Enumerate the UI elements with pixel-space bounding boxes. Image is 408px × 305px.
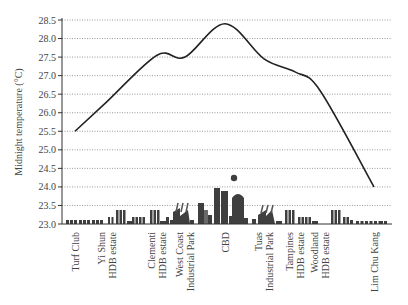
building-shape <box>157 210 160 224</box>
building-shape <box>221 191 228 224</box>
y-tick-label: 26.5 <box>39 89 57 100</box>
building-shape <box>112 217 114 224</box>
building-shape <box>331 210 334 224</box>
x-axis-category-labels: Turf ClubYi ShunHDB estateClementiHDB es… <box>70 231 380 292</box>
smokestack-shape <box>266 205 268 213</box>
y-tick-label: 28.5 <box>39 15 57 26</box>
building-shape <box>190 220 194 224</box>
building-shape <box>116 210 119 224</box>
balloon-shape <box>231 175 237 181</box>
y-tick-label: 23.0 <box>39 219 57 230</box>
x-category-label: Turf Club <box>70 232 81 271</box>
building-shape <box>198 203 204 224</box>
x-category-label-line: Turf Club <box>70 232 81 271</box>
building-shape <box>350 220 353 224</box>
building-shape <box>132 217 135 224</box>
y-tick-label: 27.5 <box>39 52 57 63</box>
building-shape <box>136 217 139 224</box>
building-shape <box>139 217 142 224</box>
y-axis-title: Midnight temperature (°C) <box>13 68 25 175</box>
building-shape <box>154 210 157 224</box>
y-tick-label: 26.0 <box>39 107 57 118</box>
building-shape <box>302 217 305 224</box>
building-shape <box>305 217 308 224</box>
x-category-label: TuasIndustrial Park <box>253 232 275 291</box>
x-category-label: Yi ShunHDB estate <box>96 231 118 278</box>
y-tick-label: 24.0 <box>39 181 57 192</box>
building-shape <box>343 217 346 224</box>
building-shape <box>347 217 350 224</box>
building-shape <box>79 220 82 224</box>
y-tick-label: 25.0 <box>39 144 57 155</box>
building-shape <box>214 188 220 224</box>
x-category-label: ClementiHDB estate <box>146 231 168 278</box>
building-shape <box>309 217 312 224</box>
building-shape <box>92 220 95 224</box>
x-category-label-line: HDB estate <box>295 231 306 278</box>
building-shape <box>123 210 126 224</box>
building-shape <box>229 216 232 224</box>
x-category-label-line: Woodland <box>309 232 320 273</box>
x-category-label-line: CBD <box>220 232 231 253</box>
building-shape <box>252 219 256 224</box>
x-category-label: TampinesHDB estate <box>284 231 306 278</box>
building-shape <box>289 210 292 224</box>
building-shape <box>244 218 248 224</box>
gridlines <box>62 20 392 205</box>
x-category-label-line: West Coast <box>174 232 185 277</box>
x-category-label-line: Clementi <box>146 232 157 269</box>
line-chart: 23.023.524.024.525.025.526.026.527.027.5… <box>0 0 408 305</box>
x-category-label-line: Industrial Park <box>185 232 196 291</box>
x-category-label-line: HDB estate <box>107 231 118 278</box>
x-category-label: WoodlandHDB estate <box>309 231 331 278</box>
building-shape <box>150 210 153 224</box>
city-skyline-illustration <box>66 175 387 224</box>
building-shape <box>204 210 208 224</box>
building-shape <box>83 220 86 224</box>
building-shape <box>120 210 123 224</box>
building-shape <box>100 220 103 224</box>
building-shape <box>87 220 90 224</box>
building-shape <box>108 217 110 224</box>
x-category-label-line: Industrial Park <box>264 232 275 291</box>
building-shape <box>143 217 146 224</box>
building-shape <box>170 220 173 224</box>
building-shape <box>70 220 73 224</box>
y-axis-tick-labels: 23.023.524.024.525.025.526.026.527.027.5… <box>39 15 63 230</box>
x-category-label-line: Lim Chu Kang <box>369 232 380 292</box>
x-category-label-line: Tampines <box>284 232 295 271</box>
building-shape <box>338 210 341 224</box>
building-shape <box>285 210 288 224</box>
temperature-curve <box>75 24 374 187</box>
building-shape <box>292 210 295 224</box>
x-category-label-line: HDB estate <box>320 231 331 278</box>
building-shape <box>166 217 169 224</box>
y-tick-label: 28.0 <box>39 33 57 44</box>
y-tick-label: 25.5 <box>39 126 57 137</box>
y-tick-label: 27.0 <box>39 70 57 81</box>
dome-tower-shape <box>232 194 244 224</box>
building-shape <box>74 220 77 224</box>
y-tick-label: 23.5 <box>39 200 57 211</box>
smokestack-shape <box>271 205 273 213</box>
building-shape <box>66 220 69 224</box>
x-category-label: West CoastIndustrial Park <box>174 232 196 291</box>
building-shape <box>335 210 338 224</box>
building-shape <box>298 217 301 224</box>
x-category-label: CBD <box>220 232 231 253</box>
building-shape <box>96 220 99 224</box>
x-category-label-line: Yi Shun <box>96 232 107 265</box>
y-tick-label: 24.5 <box>39 163 57 174</box>
x-category-label-line: HDB estate <box>157 231 168 278</box>
building-shape <box>208 215 212 224</box>
smokestack-shape <box>181 203 183 212</box>
smokestack-shape <box>261 205 263 213</box>
x-category-label-line: Tuas <box>253 232 264 251</box>
x-category-label: Lim Chu Kang <box>369 232 380 292</box>
